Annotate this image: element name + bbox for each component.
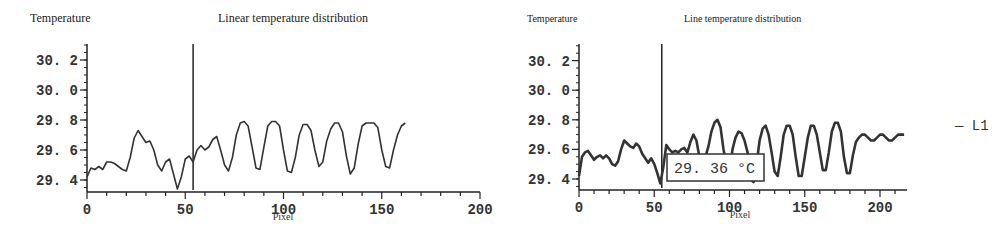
y-tick-label: 29. 4	[528, 172, 570, 188]
y-tick-label: 30. 0	[528, 83, 570, 99]
x-tick-label: 150	[792, 200, 817, 216]
y-tick-label: 30. 0	[36, 83, 78, 99]
y-tick-label: 30. 2	[36, 53, 78, 69]
x-tick-label: 150	[369, 202, 394, 218]
chart-title: Linear temperature distribution	[218, 11, 368, 25]
value-annotation-text: 29. 36 °C	[674, 161, 755, 178]
x-axis-label: Pixel	[730, 209, 751, 220]
x-tick-label: 0	[83, 202, 91, 218]
chart-linear-temperature-distribution: TemperatureLinear temperature distributi…	[0, 0, 500, 243]
x-tick-label: 200	[467, 202, 492, 218]
x-tick-label: 50	[177, 202, 194, 218]
y-tick-label: 30. 2	[528, 54, 570, 70]
x-axis-label: Pixel	[273, 211, 294, 222]
x-tick-label: 200	[867, 200, 892, 216]
x-tick-label: 0	[575, 200, 583, 216]
y-axis-label: Temperature	[527, 13, 578, 24]
x-tick-label: 50	[646, 200, 663, 216]
y-tick-label: 29. 4	[36, 173, 78, 189]
data-line-temperature	[87, 122, 405, 190]
y-tick-label: 29. 6	[36, 143, 78, 159]
y-axis-label: Temperature	[30, 11, 90, 25]
y-tick-label: 29. 8	[528, 113, 570, 129]
y-tick-label: 29. 6	[528, 142, 570, 158]
y-tick-label: 29. 8	[36, 113, 78, 129]
chart-line-temperature-distribution: TemperatureLine temperature distribution…	[500, 0, 1001, 243]
chart-title: Line temperature distribution	[684, 13, 801, 24]
legend-entry: — L1	[954, 118, 989, 134]
